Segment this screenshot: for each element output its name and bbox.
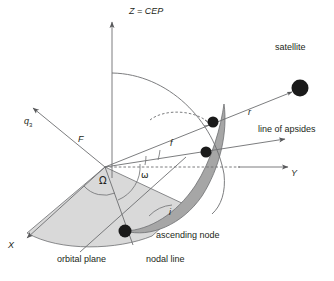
projection-dashed-arc: [150, 112, 211, 126]
raan-label: Ω: [99, 176, 107, 186]
line-of-apsides-label: line of apsides: [258, 125, 316, 134]
perigee-dot: [208, 117, 219, 128]
inclination-label: i: [169, 208, 171, 217]
radius-label: r: [248, 108, 251, 117]
satellite-dot: [292, 80, 309, 97]
ascending-node-dot: [119, 225, 132, 238]
line-of-apsides-line: [105, 139, 285, 167]
nodal-line-label: nodal line: [146, 255, 185, 264]
angle-arc-true-anomaly: [145, 150, 160, 165]
q3-axis-label: q3: [24, 117, 32, 128]
orbit-dot: [201, 147, 212, 158]
y-axis-label: Y: [291, 169, 297, 178]
x-axis-label: X: [8, 241, 14, 250]
orbital-elements-figure: Z = CEP Y X q3 F satellite r line of aps…: [0, 0, 334, 281]
satellite-label: satellite: [275, 43, 306, 52]
argument-of-perigee-label: ω: [141, 171, 149, 180]
true-anomaly-label: f: [170, 139, 173, 148]
orbital-plane-label: orbital plane: [57, 255, 106, 264]
q3-axis-label-subscript: 3: [29, 122, 32, 128]
ascending-node-label: ascending node: [156, 231, 220, 240]
focus-label: F: [78, 135, 84, 144]
q3-axis-line: [33, 108, 105, 167]
z-axis-label: Z = CEP: [129, 7, 163, 16]
